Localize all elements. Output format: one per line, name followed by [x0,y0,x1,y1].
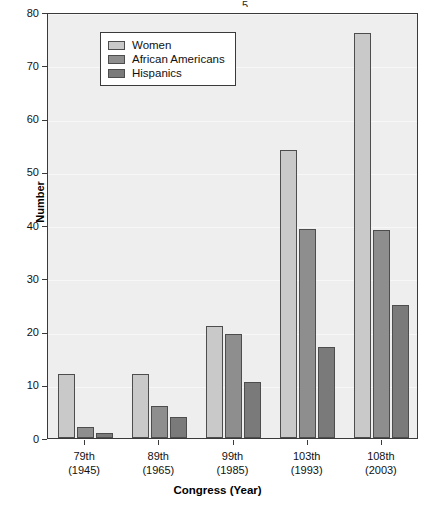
bar [280,150,297,438]
y-axis-tick-label: 60 [5,114,39,125]
x-axis-tick-mark [233,440,234,445]
bar [96,433,113,438]
y-axis-tick-label: 0 [5,434,39,445]
plot-area: Women African Americans Hispanics [47,13,418,439]
legend-item: Women [108,38,225,52]
x-axis-title: Congress (Year) [0,484,435,496]
y-axis-tick-label: 50 [5,167,39,178]
x-axis-category-name: 108th [336,449,426,463]
legend: Women African Americans Hispanics [100,32,236,86]
y-axis-tick-label: 70 [5,61,39,72]
bar [77,427,94,438]
bar [58,374,75,438]
y-axis-tick-label: 30 [5,274,39,285]
x-axis-tick-mark [158,440,159,445]
bar [299,229,316,438]
y-axis-title: Number [34,142,46,262]
bar [225,334,242,438]
bar [354,33,371,438]
legend-label-hispanics: Hispanics [132,67,182,80]
y-axis-tick-label: 40 [5,221,39,232]
legend-swatch-african-americans [108,55,125,64]
bar [132,374,149,438]
bar [151,406,168,438]
gridline [48,14,417,15]
bar [206,326,223,438]
legend-item: Hispanics [108,66,225,80]
legend-label-african-americans: African Americans [132,53,225,66]
y-axis-tick-mark [42,439,47,440]
x-axis-tick-mark [381,440,382,445]
top-text-fragment: 5 [242,0,256,7]
bar [392,305,409,438]
bar [318,347,335,438]
x-axis-tick-mark [307,440,308,445]
bar [170,417,187,438]
y-axis-tick-label: 80 [5,8,39,19]
x-axis-category-year: (2003) [336,463,426,477]
bar [244,382,261,438]
bar [373,230,390,438]
x-axis-category-label: 108th(2003) [336,449,426,477]
legend-swatch-hispanics [108,69,125,78]
legend-swatch-women [108,41,125,50]
x-axis-tick-mark [84,440,85,445]
legend-label-women: Women [132,39,171,52]
legend-item: African Americans [108,52,225,66]
y-axis-tick-label: 20 [5,327,39,338]
y-axis-tick-label: 10 [5,380,39,391]
chart-figure: 5 Number 01020304050607080 Women African… [0,0,435,510]
